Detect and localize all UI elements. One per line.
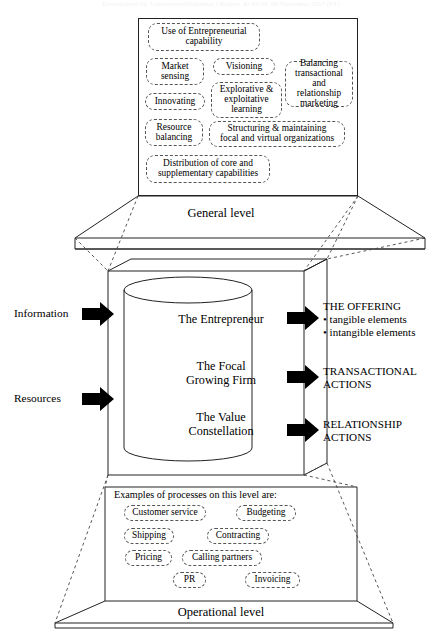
process-box-invoicing[interactable]: Invoicing (245, 572, 300, 588)
capability-box-distribution-of-core-and-supplementary-capabilities[interactable]: Distribution of core and supplementary c… (146, 155, 270, 183)
figure-canvas: Downloaded by Universitetsbiblioteket i … (0, 0, 442, 636)
capability-box-resource-balancing[interactable]: Resource balancing (145, 119, 203, 146)
capability-box-structuring-maintaining-focal-and-virtual-organizations[interactable]: Structuring & maintaining focal and virt… (209, 121, 345, 147)
capability-box-use-of-entrepreneurial-capability[interactable]: Use of Entrepreneurial capability (148, 23, 260, 51)
capability-box-innovating[interactable]: Innovating (145, 93, 205, 110)
output-label-relationship-actions: RELATIONSHIP ACTIONS (323, 418, 402, 445)
watermark-text: Downloaded by Universitetsbiblioteket i … (0, 0, 442, 14)
process-box-calling-partners[interactable]: Calling partners (182, 550, 262, 566)
output-label-the-offering: THE OFFERING • tangible elements • intan… (323, 300, 415, 340)
output-label-transactional-actions: TRANSACTIONAL ACTIONS (323, 365, 417, 392)
process-box-customer-service[interactable]: Customer service (124, 505, 206, 521)
process-box-pricing[interactable]: Pricing (125, 550, 172, 566)
process-box-shipping[interactable]: Shipping (124, 528, 174, 544)
process-box-contracting[interactable]: Contracting (207, 528, 269, 544)
process-box-budgeting[interactable]: Budgeting (236, 505, 296, 521)
process-box-pr[interactable]: PR (173, 572, 206, 588)
capability-box-market-sensing[interactable]: Market sensing (146, 58, 204, 85)
capability-box-explorative-exploitative-learning[interactable]: Explorative & exploitative learning (211, 82, 282, 118)
capability-box-balancing-transactional-and-relationship-marketing[interactable]: Balancing transactional and relationship… (285, 61, 353, 107)
input-label-information: Information (14, 307, 68, 319)
input-label-resources: Resources (14, 392, 61, 404)
general-level-label: General level (0, 206, 442, 221)
operational-level-label: Operational level (0, 605, 442, 620)
capability-box-visioning[interactable]: Visioning (213, 58, 275, 75)
examples-heading: Examples of processes on this level are: (114, 489, 277, 500)
